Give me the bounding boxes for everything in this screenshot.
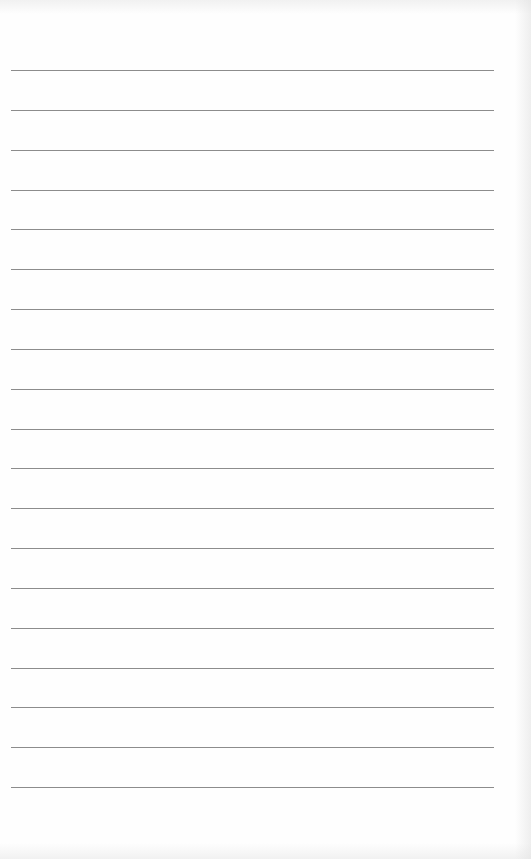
- rule-line: [11, 389, 494, 390]
- rule-line: [11, 70, 494, 71]
- rule-line: [11, 429, 494, 430]
- rule-line: [11, 668, 494, 669]
- rule-line: [11, 707, 494, 708]
- rule-line: [11, 110, 494, 111]
- rule-line: [11, 508, 494, 509]
- scan-edge-shadow: [515, 0, 531, 859]
- rule-line: [11, 309, 494, 310]
- rule-line: [11, 747, 494, 748]
- rule-line: [11, 229, 494, 230]
- scan-bottom-shadow: [0, 843, 531, 859]
- rule-line: [11, 468, 494, 469]
- rule-line: [11, 349, 494, 350]
- rule-line: [11, 150, 494, 151]
- ruled-paper-page: [0, 0, 531, 859]
- rule-line: [11, 628, 494, 629]
- rule-line: [11, 548, 494, 549]
- rule-line: [11, 269, 494, 270]
- rule-line: [11, 588, 494, 589]
- rule-line: [11, 190, 494, 191]
- rule-line: [11, 787, 494, 788]
- scan-top-shadow: [0, 0, 531, 14]
